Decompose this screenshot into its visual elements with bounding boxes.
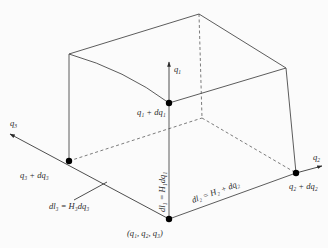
q1-axis-label: q1 (174, 64, 181, 75)
dl3-leader-line (74, 182, 107, 200)
point-q3-plus-dq3 (66, 158, 72, 164)
hidden-edge-right (202, 118, 296, 173)
q2-axis-label: q2 (313, 152, 320, 163)
hidden-edge-vertical (199, 14, 202, 118)
diagram-canvas: q1 q2 q3 q₁ + dq₁ q₂ + dq₂ q₃ + dq₃ (q₁,… (0, 0, 328, 248)
q2-axis-arrow (296, 166, 322, 173)
top-edge-front-right (169, 68, 286, 103)
label-q2-plus-dq2: q₂ + dq₂ (289, 181, 318, 191)
hidden-edge-left (69, 118, 202, 161)
label-dl3: dl₃ = H₃dq₃ (49, 201, 89, 211)
volume-element-diagram: q1 q2 q3 q₁ + dq₁ q₂ + dq₂ q₃ + dq₃ (q₁,… (0, 0, 328, 248)
top-edge-front-left-curve (69, 54, 169, 103)
label-origin: (q₁, q₂, q₃) (127, 228, 163, 238)
top-edge-back-right (199, 14, 286, 68)
point-q1-plus-dq1 (166, 100, 172, 106)
q3-axis-label: q3 (10, 118, 17, 129)
label-q1-plus-dq1: q₁ + dq₁ (137, 107, 166, 117)
label-dl2: dl₂ = H₂ + dq₂ (190, 178, 241, 205)
point-origin (166, 216, 172, 222)
label-q3-plus-dq3: q₃ + dq₃ (20, 170, 49, 180)
top-edge-back-left (69, 14, 199, 54)
label-dl1: dl₁ = H₁dq₁ (157, 172, 167, 212)
point-q2-plus-dq2 (293, 170, 299, 176)
vertical-edge-right (286, 68, 296, 173)
